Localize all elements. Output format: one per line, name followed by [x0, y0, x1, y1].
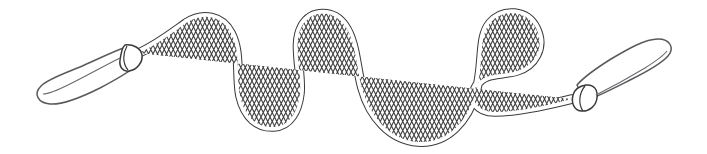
jump-rope-illustration: Braided jump rope with paddle handles — [0, 0, 707, 154]
right-collar — [572, 85, 597, 111]
illustration-canvas: Black and white line drawing of a skippi… — [0, 0, 707, 154]
